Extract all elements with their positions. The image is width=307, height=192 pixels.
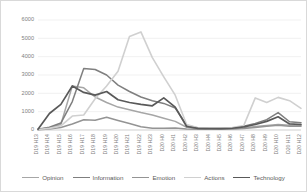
x-axis-tick-label: D20 H4	[205, 134, 211, 152]
x-axis-tick-label: D20 H8	[250, 134, 256, 152]
legend-item-emotion[interactable]: Emotion	[132, 174, 175, 181]
legend-label: Opinion	[42, 174, 63, 181]
x-axis-tick-label: D20 H11	[285, 134, 291, 154]
x-axis-tick-label: D19 H20	[113, 134, 119, 155]
x-axis-tick-label: D20 H12	[296, 134, 302, 155]
y-axis-tick-label: 1000	[22, 108, 34, 114]
x-axis-tick-label: D20 H1	[170, 134, 176, 152]
legend-label: Emotion	[152, 174, 175, 181]
x-axis-tick-label: D19 H15	[56, 134, 62, 155]
y-axis-tick-label: 0	[31, 126, 34, 132]
series-line-actions	[38, 32, 301, 130]
line-chart: 0100020003000400050006000D19 H13D19 H14D…	[1, 1, 307, 192]
x-axis-tick-label: D19 H17	[79, 134, 85, 155]
chart-legend: OpinionInformationEmotionActionsTechnolo…	[1, 171, 306, 183]
x-axis-tick-label: D19 H16	[67, 134, 73, 155]
x-axis-tick-label: D20 H3	[193, 134, 199, 152]
x-axis-tick-label: D19 H18	[90, 134, 96, 155]
legend-swatch-emotion-icon	[132, 177, 149, 178]
chart-plot-area: 0100020003000400050006000D19 H13D19 H14D…	[1, 1, 307, 192]
x-axis-tick-label: D20 H7	[239, 134, 245, 152]
y-axis-tick-label: 6000	[22, 16, 34, 22]
legend-item-actions[interactable]: Actions	[184, 174, 224, 181]
chart-card: 0100020003000400050006000D19 H13D19 H14D…	[0, 0, 307, 192]
legend-label: Technology	[253, 174, 284, 181]
x-axis-tick-label: D19 H21	[124, 134, 130, 155]
x-axis-tick-label: D20 H0	[159, 134, 165, 152]
x-axis-tick-label: D19 H19	[102, 134, 108, 155]
y-axis-tick-label: 2000	[22, 90, 34, 96]
y-axis-tick-label: 3000	[22, 71, 34, 77]
y-axis-tick-label: 5000	[22, 35, 34, 41]
legend-item-information[interactable]: Information	[73, 174, 124, 181]
x-axis-tick-label: D19 H23	[147, 134, 153, 155]
legend-swatch-opinion-icon	[22, 177, 39, 178]
x-axis-tick-label: D20 H9	[262, 134, 268, 152]
legend-swatch-technology-icon	[233, 177, 250, 178]
legend-item-opinion[interactable]: Opinion	[22, 174, 63, 181]
series-line-technology	[38, 86, 301, 129]
legend-label: Information	[93, 174, 124, 181]
x-axis-tick-label: D19 H14	[44, 134, 50, 155]
legend-item-technology[interactable]: Technology	[233, 174, 284, 181]
y-axis-tick-label: 4000	[22, 53, 34, 59]
x-axis-tick-label: D19 H13	[33, 134, 39, 155]
x-axis-tick-label: D19 H22	[136, 134, 142, 155]
x-axis-tick-label: D20 H2	[182, 134, 188, 152]
x-axis-tick-label: D20 H5	[216, 134, 222, 152]
legend-label: Actions	[204, 174, 224, 181]
x-axis-tick-label: D20 H10	[273, 134, 279, 155]
x-axis-tick-label: D20 H6	[227, 134, 233, 152]
legend-swatch-information-icon	[73, 177, 90, 178]
legend-swatch-actions-icon	[184, 177, 201, 178]
